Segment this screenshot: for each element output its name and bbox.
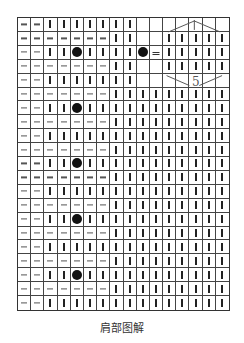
- chart-cell-bar-icon: [124, 254, 137, 268]
- chart-cell-dash-icon: [31, 171, 44, 185]
- chart-cell-bar-icon: [71, 129, 84, 143]
- chart-cell-bar-icon: [216, 282, 229, 296]
- chart-cell-bar-icon: [216, 60, 229, 74]
- chart-cell-dash-icon: [84, 227, 97, 241]
- chart-cell-bar-icon: [189, 143, 202, 157]
- chart-cell-bar-icon: [137, 213, 150, 227]
- chart-cell-bar-icon: [137, 143, 150, 157]
- chart-cell-bar-icon: [150, 213, 163, 227]
- chart-cell-bar-icon: [84, 185, 97, 199]
- chart-cell-bar-icon: [176, 32, 189, 46]
- chart-cell-bar-icon: [97, 129, 110, 143]
- chart-cell-bar-icon: [203, 101, 216, 115]
- chart-cell-bar-icon: [203, 240, 216, 254]
- chart-cell-bar-icon: [203, 143, 216, 157]
- chart-cell-bar-icon: [58, 268, 71, 282]
- chart-cell: [150, 74, 163, 88]
- chart-cell-bar-icon: [110, 171, 123, 185]
- chart-cell-bar-icon: [176, 115, 189, 129]
- chart-cell-bar-icon: [216, 227, 229, 241]
- chart-cell-bar-icon: [203, 129, 216, 143]
- chart-cell: [216, 74, 229, 88]
- chart-cell-bar-icon: [124, 157, 137, 171]
- chart-cell-bar-icon: [176, 171, 189, 185]
- chart-cell: [176, 18, 189, 32]
- chart-cell-dash-icon: [18, 171, 31, 185]
- chart-cell-dash-icon: [97, 32, 110, 46]
- chart-cell-dash-icon: [18, 185, 31, 199]
- chart-cell-bar-icon: [124, 101, 137, 115]
- chart-cell-bar-icon: [124, 46, 137, 60]
- chart-cell-bar-icon: [163, 268, 176, 282]
- chart-cell-dash-icon: [31, 199, 44, 213]
- chart-cell-dash-icon: [84, 199, 97, 213]
- chart-cell-bar-icon: [84, 101, 97, 115]
- chart-cell-bar-icon: [189, 296, 202, 310]
- chart-cell-bar-icon: [58, 240, 71, 254]
- chart-cell-dash-icon: [18, 74, 31, 88]
- chart-cell-bar-icon: [44, 129, 57, 143]
- chart-cell-bar-icon: [84, 296, 97, 310]
- chart-cell-bar-icon: [150, 157, 163, 171]
- chart-cell-dash-icon: [44, 88, 57, 102]
- chart-cell-dash-icon: [58, 143, 71, 157]
- chart-cell-dash-icon: [18, 213, 31, 227]
- chart-cell-dash-icon: [97, 282, 110, 296]
- chart-cell-bar-icon: [163, 32, 176, 46]
- chart-cell: [163, 18, 176, 32]
- chart-cell-dash-icon: [31, 74, 44, 88]
- chart-cell-bar-icon: [216, 46, 229, 60]
- chart-cell-dash-icon: [84, 115, 97, 129]
- chart-cell-bar-icon: [189, 88, 202, 102]
- chart-cell-bar-icon: [176, 129, 189, 143]
- chart-cell: [189, 18, 202, 32]
- chart-cell-bar-icon: [176, 268, 189, 282]
- chart-cell-bar-icon: [58, 74, 71, 88]
- chart-cell-bar-icon: [203, 199, 216, 213]
- chart-cell-dash-icon: [58, 115, 71, 129]
- chart-cell: [137, 18, 150, 32]
- chart-cell-dash-icon: [44, 115, 57, 129]
- chart-cell-dash-icon: [44, 199, 57, 213]
- chart-cell-bar-icon: [203, 227, 216, 241]
- chart-cell-dash-icon: [18, 240, 31, 254]
- chart-cell-bar-icon: [163, 101, 176, 115]
- chart-cell-dash-icon: [97, 88, 110, 102]
- chart-cell-bar-icon: [163, 227, 176, 241]
- chart-cell-bar-icon: [44, 296, 57, 310]
- chart-cell-bar-icon: [163, 199, 176, 213]
- chart-cell-bar-icon: [137, 171, 150, 185]
- chart-cell: [150, 32, 163, 46]
- chart-cell-bar-icon: [110, 60, 123, 74]
- chart-cell-dash-icon: [31, 18, 44, 32]
- chart-cell-bar-icon: [176, 60, 189, 74]
- chart-cell-bar-icon: [216, 101, 229, 115]
- chart-cell-bar-icon: [124, 227, 137, 241]
- chart-cell-bar-icon: [163, 115, 176, 129]
- chart-cell-bar-icon: [137, 254, 150, 268]
- chart-cell-bar-icon: [97, 46, 110, 60]
- chart-cell-bar-icon: [84, 213, 97, 227]
- chart-cell-bar-icon: [124, 213, 137, 227]
- chart-cell-bar-icon: [58, 101, 71, 115]
- chart-cell-dash-icon: [18, 32, 31, 46]
- chart-cell-dash-icon: [71, 254, 84, 268]
- chart-cell-dash-icon: [31, 268, 44, 282]
- chart-cell-bar-icon: [71, 74, 84, 88]
- chart-cell-bar-icon: [124, 240, 137, 254]
- chart-cell-dash-icon: [84, 254, 97, 268]
- chart-cell-bar-icon: [58, 157, 71, 171]
- chart-cell-dash-icon: [97, 171, 110, 185]
- chart-cell-bar-icon: [124, 32, 137, 46]
- chart-cell-bar-icon: [150, 171, 163, 185]
- chart-cell-dash-icon: [44, 60, 57, 74]
- chart-cell: [203, 74, 216, 88]
- chart-cell-dash-icon: [18, 88, 31, 102]
- chart-cell-dash-icon: [44, 282, 57, 296]
- chart-cell-bar-icon: [189, 240, 202, 254]
- chart-cell-bar-icon: [44, 101, 57, 115]
- chart-cell-bar-icon: [189, 129, 202, 143]
- chart-cell: [150, 18, 163, 32]
- chart-cell-bar-icon: [137, 282, 150, 296]
- chart-cell-bar-icon: [110, 199, 123, 213]
